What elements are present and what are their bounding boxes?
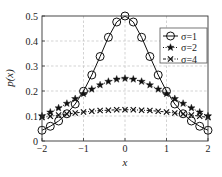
star-marker [55, 104, 62, 111]
legend: σ=1σ=2σ=4 [160, 28, 207, 65]
legend-label: σ=2 [181, 42, 197, 53]
x-marker [89, 109, 94, 114]
star-marker [146, 81, 153, 88]
legend-label: σ=1 [181, 31, 197, 42]
star-marker [63, 100, 70, 107]
star-marker [113, 75, 120, 82]
y-tick-label: 0 [33, 136, 38, 147]
star-marker [130, 75, 137, 82]
x-tick-label: −1 [78, 143, 89, 154]
x-axis-label: x [122, 156, 128, 168]
y-tick-label: 0.1 [26, 111, 39, 122]
star-marker [96, 81, 103, 88]
y-tick-label: 0.5 [26, 11, 39, 22]
y-tick-label: 0.2 [26, 86, 39, 97]
x-marker [114, 107, 119, 112]
star-marker [179, 100, 186, 107]
y-tick-label: 0.3 [26, 61, 39, 72]
x-tick-label: −2 [37, 143, 48, 154]
star-marker [105, 78, 112, 85]
chart: −2−101200.10.20.30.40.5 x p(x) σ=1σ=2σ=4 [0, 0, 222, 177]
star-marker [138, 78, 145, 85]
x-tick-label: 0 [123, 143, 128, 154]
y-axis-label: p(x) [3, 69, 16, 88]
legend-label: σ=4 [181, 54, 197, 65]
y-tick-label: 0.4 [26, 36, 39, 47]
x-tick-label: 2 [206, 143, 211, 154]
x-tick-label: 1 [164, 143, 169, 154]
star-marker [188, 104, 195, 111]
series-4 [39, 107, 210, 120]
